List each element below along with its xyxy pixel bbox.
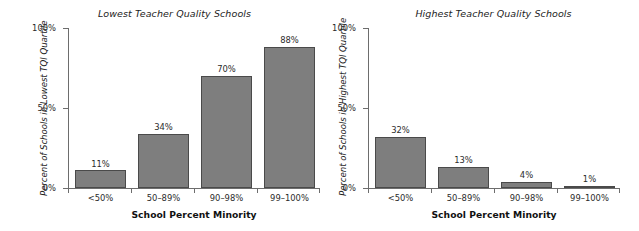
bar-value-left-0: 11%: [75, 159, 126, 169]
bar-value-right-2: 4%: [501, 170, 552, 180]
x-axis-title-left: School Percent Minority: [68, 209, 320, 220]
bar-left-2[interactable]: [201, 76, 252, 188]
plot-area-right: 100% 50% 0% 32% <50% 13%: [368, 28, 620, 189]
bar-right-2[interactable]: [501, 182, 552, 188]
y-tick-label-50-right: 50%: [337, 103, 356, 113]
y-tick-label-100-right: 100%: [332, 23, 356, 33]
plot-area-left: 100% 50% 0% 11% <50%: [68, 28, 320, 189]
bar-slot-left-1: 34% 50–89%: [138, 28, 189, 188]
y-tick-100-right: 100%: [363, 28, 368, 29]
bar-value-right-1: 13%: [438, 155, 489, 165]
panel-highest-teacher-quality: Highest Teacher Quality Schools Percent …: [320, 0, 639, 231]
bar-left-1[interactable]: [138, 134, 189, 188]
bar-left-0[interactable]: [75, 170, 126, 188]
bar-slot-left-2: 70% 90–98%: [201, 28, 252, 188]
bar-right-0[interactable]: [375, 137, 426, 188]
y-tick-50-right: 50%: [363, 108, 368, 109]
bar-value-left-3: 88%: [264, 35, 315, 45]
bar-slot-right-2: 4% 90–98%: [501, 28, 552, 188]
chart-title-left: Lowest Teacher Quality Schools: [0, 8, 319, 19]
bar-slot-left-3: 88% 99–100%: [264, 28, 315, 188]
bar-group-right: 32% <50% 13% 50–89% 4% 90–98% 1% 99–100%: [369, 28, 620, 188]
bar-slot-right-0: 32% <50%: [375, 28, 426, 188]
bar-slot-left-0: 11% <50%: [75, 28, 126, 188]
bar-value-right-0: 32%: [375, 125, 426, 135]
category-label-right-3: 99–100%: [550, 193, 629, 203]
bar-value-right-3: 1%: [564, 174, 615, 184]
bar-right-3[interactable]: [564, 186, 615, 188]
y-tick-label-0-right: 0%: [343, 183, 356, 193]
x-axis-title-right: School Percent Minority: [368, 209, 620, 220]
chart-title-right: Highest Teacher Quality Schools: [320, 8, 639, 19]
bar-slot-right-1: 13% 50–89%: [438, 28, 489, 188]
category-label-left-3: 99–100%: [250, 193, 329, 203]
bar-slot-right-3: 1% 99–100%: [564, 28, 615, 188]
bar-group-left: 11% <50% 34% 50–89% 70% 90–98% 88% 99–10: [69, 28, 320, 188]
y-tick-50-left: 50%: [63, 108, 68, 109]
panel-lowest-teacher-quality: Lowest Teacher Quality Schools Percent o…: [0, 0, 319, 231]
bar-value-left-2: 70%: [201, 64, 252, 74]
y-tick-label-50-left: 50%: [37, 103, 56, 113]
figure-two-panel-bar-charts: Lowest Teacher Quality Schools Percent o…: [0, 0, 639, 231]
bar-value-left-1: 34%: [138, 122, 189, 132]
bar-right-1[interactable]: [438, 167, 489, 188]
bar-left-3[interactable]: [264, 47, 315, 188]
y-tick-label-100-left: 100%: [32, 23, 56, 33]
y-tick-label-0-left: 0%: [43, 183, 56, 193]
y-tick-100-left: 100%: [63, 28, 68, 29]
